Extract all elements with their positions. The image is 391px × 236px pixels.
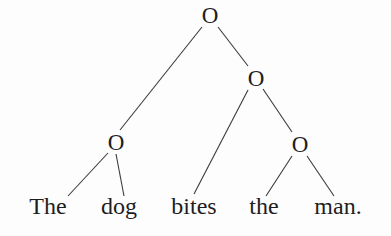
word-bites: bites — [171, 193, 216, 219]
edge-predicate-to-bites — [194, 90, 248, 194]
root-node: O — [202, 3, 219, 28]
edges — [68, 27, 334, 196]
word-the: The — [29, 193, 66, 219]
edge-root-to-predicate — [218, 27, 248, 66]
predicate-node: O — [248, 66, 265, 91]
edge-object-to-the — [266, 156, 292, 196]
object-node: O — [292, 132, 309, 157]
word-dog: dog — [101, 193, 137, 219]
syntax-tree: O O O O The dog bites the man. — [0, 0, 391, 236]
edge-predicate-to-object — [263, 89, 292, 132]
edge-root-to-subject — [120, 27, 202, 130]
edge-subject-to-the — [68, 153, 108, 196]
nodes: O O O O — [108, 3, 309, 157]
tree-diagram-canvas: O O O O The dog bites the man. — [0, 0, 391, 236]
edge-subject-to-dog — [116, 154, 124, 196]
word-man: man. — [314, 193, 361, 219]
edge-object-to-man — [307, 156, 334, 196]
subject-node: O — [108, 130, 125, 155]
word-the-2: the — [249, 193, 278, 219]
leaf-words: The dog bites the man. — [29, 193, 361, 219]
